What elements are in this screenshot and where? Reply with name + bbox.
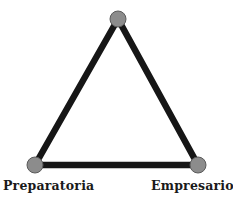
edge-top-right <box>118 19 198 165</box>
label-preparatoria: Preparatoria <box>3 178 94 193</box>
edge-top-left <box>35 19 118 165</box>
triangle-diagram <box>0 0 233 204</box>
node-top <box>110 11 126 27</box>
label-empresario: Empresario <box>151 178 233 193</box>
node-bottom-right <box>190 157 206 173</box>
node-bottom-left <box>27 157 43 173</box>
